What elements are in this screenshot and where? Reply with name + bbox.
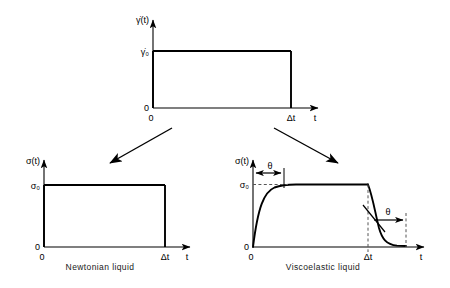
x-tick-label-zero-top: 0 xyxy=(148,113,153,123)
x-tick-label-zero-newtonian: 0 xyxy=(39,252,44,262)
y-tick-label-zero-viscoelastic: 0 xyxy=(244,242,249,252)
rheology-step-response-figure: γ̇(t) γ̇₀ 0 0 Δt t σ(t) σ₀ 0 0 Δt t θ xyxy=(0,0,450,288)
chart-viscoelastic-stress: θ θ σ(t) σ₀ 0 0 Δt t xyxy=(235,156,424,262)
x-axis-label-time-newtonian: t xyxy=(186,252,189,262)
arrow-to-newtonian xyxy=(110,128,172,163)
arrow-to-viscoelastic xyxy=(274,128,338,163)
x-axis-label-time-viscoelastic: t xyxy=(420,252,423,262)
caption-newtonian-liquid: Newtonian liquid xyxy=(0,262,200,272)
x-tick-label-zero-viscoelastic: 0 xyxy=(248,252,253,262)
theta-rise-label: θ xyxy=(267,161,272,171)
y-axis-label-stress-viscoelastic: σ(t) xyxy=(235,156,249,166)
y-tick-label-zero-top: 0 xyxy=(144,103,149,113)
y-axis-label-stress-newtonian: σ(t) xyxy=(26,156,40,166)
x-axis-label-time-top: t xyxy=(314,113,317,123)
y-tick-label-sigma-zero-newtonian: σ₀ xyxy=(31,181,41,191)
y-tick-label-sigma-zero-viscoelastic: σ₀ xyxy=(240,180,250,190)
x-tick-label-delta-t-top: Δt xyxy=(287,113,296,123)
y-tick-label-zero-newtonian: 0 xyxy=(35,242,40,252)
caption-viscoelastic-liquid: Viscoelastic liquid xyxy=(218,262,428,272)
x-tick-label-delta-t-newtonian: Δt xyxy=(161,252,170,262)
theta-decay-label: θ xyxy=(385,207,390,217)
x-tick-label-delta-t-viscoelastic: Δt xyxy=(364,252,373,262)
viscoelastic-rise-and-plateau xyxy=(253,185,368,248)
y-tick-label-shear-rate-zero-sub: γ̇₀ xyxy=(141,47,150,57)
chart-newtonian-stress: σ(t) σ₀ 0 0 Δt t xyxy=(26,156,190,262)
chart-input-shear-rate: γ̇(t) γ̇₀ 0 0 Δt t xyxy=(136,15,318,123)
y-axis-label-shear-rate: γ̇(t) xyxy=(136,15,149,25)
